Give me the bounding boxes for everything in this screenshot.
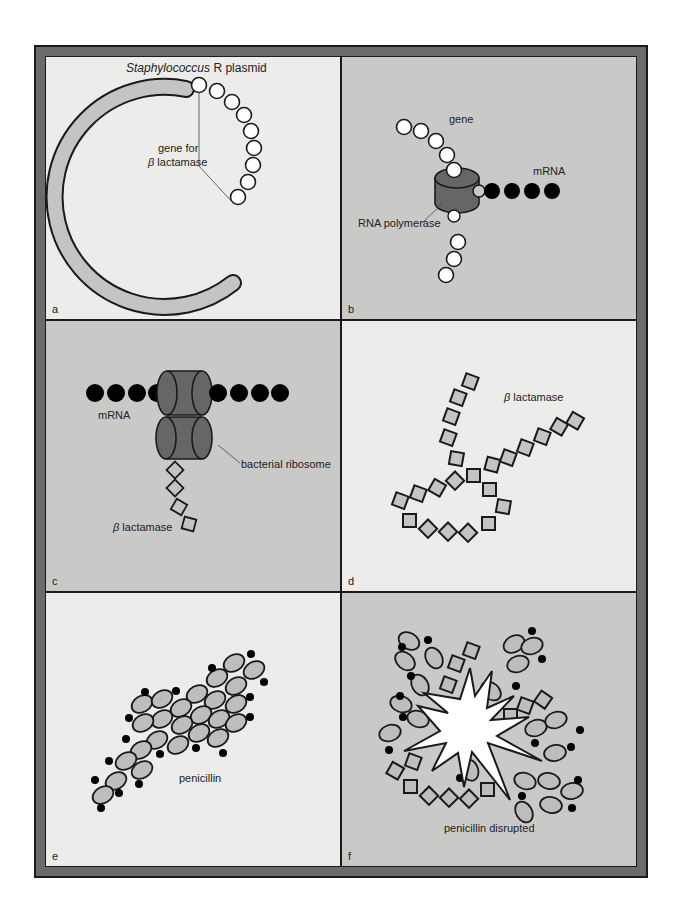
panel-grid: Staphylococcus R plasmid gene for β lact…: [45, 56, 637, 867]
panel-letter-c: c: [52, 575, 58, 587]
panel-letter-d: d: [348, 575, 354, 587]
penicillin-diagram: [46, 593, 340, 866]
panel-c: mRNA bacterial ribosome β lactamase c: [46, 321, 340, 591]
panel-letter-e: e: [52, 850, 58, 862]
penicillin-disrupted-label: penicillin disrupted: [444, 822, 535, 834]
lactamase-label: β lactamase: [113, 521, 173, 533]
gene-label-line2: β lactamase: [148, 156, 208, 168]
translation-diagram: [46, 321, 340, 591]
panel-b: gene mRNA RNA polymerase b: [342, 57, 636, 319]
figure-frame: Staphylococcus R plasmid gene for β lact…: [34, 45, 648, 878]
panel-f: penicillin disrupted f: [342, 593, 636, 866]
mrna-strand: [86, 384, 166, 402]
rna-polymerase-icon: [435, 163, 485, 223]
gene-label: gene: [449, 113, 473, 125]
panel-e: penicillin e: [46, 593, 340, 866]
ribosome-label: bacterial ribosome: [241, 458, 331, 470]
plasmid-diagram: [46, 57, 340, 319]
mrna-strand: [484, 183, 560, 199]
panel-letter-a: a: [52, 303, 58, 315]
transcription-diagram: [342, 57, 636, 319]
mrna-label: mRNA: [98, 409, 130, 421]
panel-a: Staphylococcus R plasmid gene for β lact…: [46, 57, 340, 319]
gene-label-line1: gene for: [158, 142, 198, 154]
rna-polymerase-label: RNA polymerase: [358, 217, 441, 229]
panel-letter-b: b: [348, 303, 354, 315]
ribosome-icon: [156, 371, 212, 459]
panel-d: β lactamase d: [342, 321, 636, 591]
mrna-label: mRNA: [533, 165, 565, 177]
mrna-strand-right: [209, 384, 289, 402]
lactamase-protein-diagram: [342, 321, 636, 591]
lactamase-label: β lactamase: [504, 391, 564, 403]
panel-letter-f: f: [348, 850, 351, 862]
penicillin-label: penicillin: [179, 772, 221, 784]
gene-beads: [192, 78, 262, 205]
plasmid-title: Staphylococcus R plasmid: [126, 61, 267, 75]
